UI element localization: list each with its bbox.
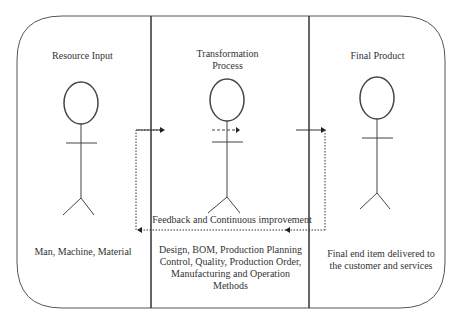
transformation-caption: Design, BOM, Production Planning Control…: [152, 244, 309, 292]
caption-line: the customer and services: [318, 260, 444, 272]
caption-line: Control, Quality, Production Order,: [152, 256, 309, 268]
final-product-title: Final Product: [330, 50, 425, 62]
caption-line: Design, BOM, Production Planning: [152, 244, 309, 256]
caption-line: Manufacturing and Operation: [152, 268, 309, 280]
transformation-title: Transformation Process: [170, 48, 285, 72]
resource-input-caption: Man, Machine, Material: [28, 246, 138, 258]
resource-input-title: Resource Input: [35, 50, 130, 62]
caption-line: Methods: [152, 280, 309, 292]
stick-figure-transformation: [208, 79, 244, 213]
final-product-caption: Final end item delivered to the customer…: [318, 248, 444, 272]
caption-line: Final end item delivered to: [318, 248, 444, 260]
stick-figure-resource: [63, 82, 98, 215]
feedback-label: Feedback and Continuous improvement: [152, 214, 312, 226]
stick-figure-final: [360, 77, 394, 209]
transformation-title-line2: Process: [170, 60, 285, 72]
feedback-arrow: [137, 227, 325, 233]
transformation-title-line1: Transformation: [170, 48, 285, 60]
